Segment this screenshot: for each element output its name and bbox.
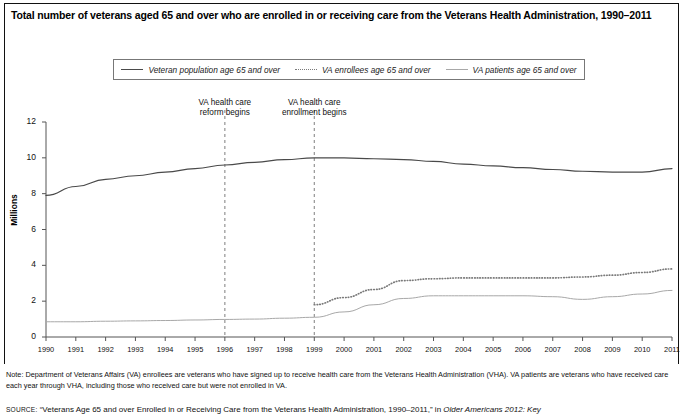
source-text: “Veterans Age 65 and over Enrolled in or… xyxy=(37,405,443,414)
source-publication-title: Older Americans 2012: Key xyxy=(443,405,541,414)
figure-page: Total number of veterans aged 65 and ove… xyxy=(0,0,683,419)
legend-item-va-patients: VA patients age 65 and over xyxy=(446,65,577,75)
legend-label-veteran-population: Veteran population age 65 and over xyxy=(148,65,280,75)
legend-label-va-enrollees: VA enrollees age 65 and over xyxy=(322,65,431,75)
figure-note: Note: Department of Veterans Affairs (VA… xyxy=(6,370,678,391)
figure-source: SOURCE: “Veterans Age 65 and over Enroll… xyxy=(6,404,678,415)
legend-line-light-icon xyxy=(446,69,468,71)
figure-frame xyxy=(4,31,679,364)
source-label: SOURCE: xyxy=(6,406,37,413)
legend-line-dotted-icon xyxy=(295,69,317,71)
legend-item-veteran-population: Veteran population age 65 and over xyxy=(121,65,280,75)
chart-legend: Veteran population age 65 and over VA en… xyxy=(113,59,585,80)
legend-item-va-enrollees: VA enrollees age 65 and over xyxy=(295,65,431,75)
legend-line-solid-icon xyxy=(121,69,143,71)
note-label: Note: xyxy=(6,370,23,379)
legend-label-va-patients: VA patients age 65 and over xyxy=(473,65,577,75)
page-title: Total number of veterans aged 65 and ove… xyxy=(11,9,671,21)
note-text: Department of Veterans Affairs (VA) enro… xyxy=(6,370,668,390)
